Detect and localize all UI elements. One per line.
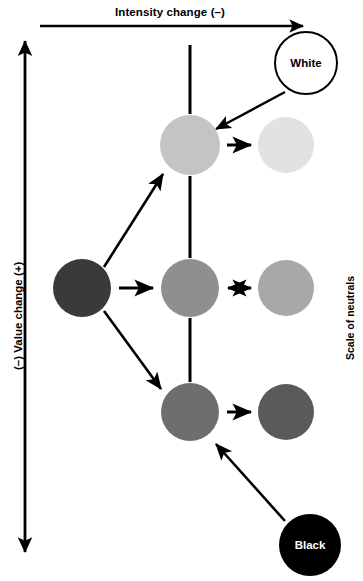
node-mid-light-gray	[258, 260, 314, 316]
value-change-axis-label: (–) Value change (+)	[13, 262, 25, 370]
connector-black-to-dark-mid-gray	[216, 444, 285, 521]
node-black-label: Black	[279, 540, 341, 552]
connector-dark-gray-to-dark-mid-gray	[104, 311, 161, 389]
node-mid-gray	[161, 259, 219, 317]
neutrals-scale-figure: Intensity change (–) (–) Value change (+…	[0, 0, 363, 581]
node-pale-gray	[258, 117, 314, 173]
intensity-change-axis-label: Intensity change (–)	[0, 7, 340, 19]
scale-of-neutrals-label: Scale of neutrals	[345, 276, 356, 360]
node-light-gray	[160, 115, 220, 175]
node-dark-mid-gray	[161, 383, 219, 441]
figure-canvas	[0, 0, 363, 581]
connector-dark-gray-to-light-gray	[104, 174, 163, 267]
node-darker-gray	[258, 384, 314, 440]
node-dark-gray	[53, 259, 111, 317]
node-white-label: White	[275, 58, 337, 70]
